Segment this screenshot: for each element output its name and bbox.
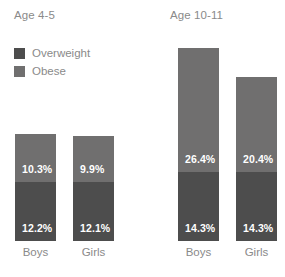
bar-value-overweight: 12.1% [80,222,110,234]
category-label-boys: Boys [178,246,219,258]
bar-value-obese: 26.4% [185,153,215,165]
bar-value-overweight: 14.3% [185,222,215,234]
bar-age-10-11-boys: 26.4% 14.3% [178,48,219,241]
bar-segment-overweight: 12.2% [15,182,56,241]
legend-label-obese: Obese [32,66,66,77]
bar-age-4-5-boys: 10.3% 12.2% [15,134,56,241]
bar-segment-obese: 20.4% [236,77,277,172]
legend-swatch-obese-icon [14,66,25,77]
bar-value-obese: 10.3% [22,163,52,175]
stacked-bar-chart: Age 4-5 Age 10-11 Overweight Obese 10.3%… [0,0,285,277]
bar-value-obese: 9.9% [80,163,104,175]
legend-label-overweight: Overweight [32,48,90,59]
group-title-age-10-11: Age 10-11 [170,9,223,21]
bar-segment-obese: 10.3% [15,134,56,182]
bar-value-obese: 20.4% [243,153,273,165]
legend-swatch-overweight-icon [14,48,25,59]
bar-segment-overweight: 12.1% [73,182,114,241]
category-label-girls: Girls [73,246,114,258]
bar-value-overweight: 12.2% [22,222,52,234]
legend-item-obese: Obese [14,64,90,79]
bar-segment-overweight: 14.3% [178,172,219,241]
category-label-boys: Boys [15,246,56,258]
bar-segment-obese: 9.9% [73,136,114,182]
chart-legend: Overweight Obese [14,46,90,82]
group-title-age-4-5: Age 4-5 [14,9,55,21]
bar-age-4-5-girls: 9.9% 12.1% [73,136,114,241]
bar-segment-overweight: 14.3% [236,172,277,241]
bar-value-overweight: 14.3% [243,222,273,234]
category-label-girls: Girls [236,246,277,258]
legend-item-overweight: Overweight [14,46,90,61]
bar-age-10-11-girls: 20.4% 14.3% [236,77,277,241]
bar-segment-obese: 26.4% [178,48,219,172]
